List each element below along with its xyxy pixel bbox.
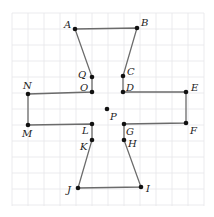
label-f: F — [189, 125, 198, 136]
label-m: M — [21, 128, 33, 139]
point-n — [26, 92, 31, 97]
label-k: K — [79, 141, 88, 152]
point-q — [90, 75, 95, 80]
point-c — [121, 74, 126, 79]
polygon-grid-diagram: ABCDEFGHIJKLMNOQP — [0, 0, 214, 217]
label-g: G — [126, 126, 134, 137]
point-h — [122, 138, 127, 143]
label-c: C — [127, 66, 135, 77]
point-a — [73, 27, 78, 32]
point-k — [90, 138, 95, 143]
label-l: L — [81, 125, 89, 136]
label-n: N — [22, 80, 33, 91]
label-i: I — [145, 183, 151, 194]
label-a: A — [63, 19, 71, 30]
point-b — [135, 26, 140, 31]
point-m — [26, 123, 31, 128]
label-d: D — [125, 82, 134, 93]
point-l — [90, 122, 95, 127]
point-o — [90, 90, 95, 95]
point-p — [105, 107, 110, 112]
label-p: P — [109, 111, 117, 122]
label-j: J — [65, 184, 72, 195]
label-q: Q — [78, 69, 86, 80]
point-d — [121, 90, 126, 95]
point-i — [139, 185, 144, 190]
label-h: H — [127, 138, 137, 149]
point-e — [184, 90, 189, 95]
label-o: O — [80, 82, 88, 93]
point-f — [184, 121, 189, 126]
label-e: E — [190, 82, 199, 93]
point-j — [76, 186, 81, 191]
vertex-points — [26, 26, 189, 191]
label-b: B — [140, 17, 148, 28]
